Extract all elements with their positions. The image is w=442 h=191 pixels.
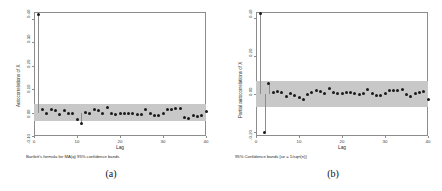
data-point (371, 92, 374, 95)
data-point (306, 93, 309, 96)
x-axis-tick (256, 136, 257, 138)
y-tick-label: 0.20 (248, 48, 253, 57)
data-point (192, 114, 195, 117)
plot-note-a: Bartlett's formula for MA(q) 95% confide… (26, 154, 119, 159)
x-axis-tick (163, 136, 164, 138)
data-point (414, 92, 417, 95)
data-point (205, 110, 208, 113)
y-tick-label: 0.40 (248, 9, 253, 18)
data-point (67, 112, 70, 115)
data-point (259, 12, 262, 15)
subfigure-caption-a: (a) (85, 168, 137, 179)
x-axis-tick (206, 136, 207, 138)
data-point (58, 113, 61, 116)
plot-note-b: 95% Confidence bands [se = 1/sqrt(n)] (235, 154, 307, 159)
x-axis-tick (34, 136, 35, 138)
data-point (106, 106, 109, 109)
plot-area-b (256, 12, 428, 136)
spike-line (265, 94, 266, 132)
x-tick-label: 10 (71, 139, 83, 144)
panel-a: 0.40 0.30 0.20 0.10 0.00 -0.10 Autocorre… (0, 0, 221, 191)
x-axis-tick (120, 136, 121, 138)
spike-line (38, 14, 39, 112)
data-point (119, 112, 122, 115)
data-point (149, 112, 152, 115)
data-point (263, 131, 266, 134)
plot-area-a (34, 12, 206, 136)
y-tick-label: 0.40 (26, 9, 31, 18)
data-point (341, 92, 344, 95)
data-point (110, 112, 113, 115)
y-axis-tick (32, 136, 34, 137)
data-point (84, 111, 87, 114)
spike-line (260, 14, 261, 94)
data-point (427, 98, 430, 101)
x-tick-label: 10 (293, 139, 305, 144)
figure-container: 0.40 0.30 0.20 0.10 0.00 -0.10 Autocorre… (0, 0, 442, 191)
data-point (136, 113, 139, 116)
x-axis-tick (77, 136, 78, 138)
x-tick-label: 30 (157, 139, 169, 144)
x-tick-label: 40 (422, 139, 434, 144)
spike-line (269, 84, 270, 94)
x-tick-label: 40 (200, 139, 212, 144)
x-axis-tick (342, 136, 343, 138)
data-point (80, 122, 83, 125)
y-axis-tick (254, 132, 256, 133)
x-tick-label: 0 (28, 139, 40, 144)
panel-b: 0.40 0.20 0.00 -0.20 Partial autocorrela… (221, 0, 442, 191)
data-point (285, 95, 288, 98)
y-tick-label: 0.00 (248, 87, 253, 96)
y-axis-title-b: Partial autocorrelations of X (238, 62, 243, 118)
data-point (328, 87, 331, 90)
data-point (76, 118, 79, 121)
y-axis-tick (254, 56, 256, 57)
data-point (315, 89, 318, 92)
x-axis-tick (428, 136, 429, 138)
x-tick-label: 20 (336, 139, 348, 144)
data-point (345, 91, 348, 94)
y-tick-label: 0.20 (26, 59, 31, 68)
data-point (41, 108, 44, 111)
data-point (379, 94, 382, 97)
data-point (362, 92, 365, 95)
data-point (170, 108, 173, 111)
data-point (123, 112, 126, 115)
y-axis-tick (254, 18, 256, 19)
subfigure-caption-b: (b) (307, 168, 359, 179)
y-tick-label: 0.30 (26, 34, 31, 43)
x-axis-title-b: Lag (316, 145, 368, 150)
y-axis-title-a: Autocorrelations of X (16, 64, 21, 107)
y-axis-tick (32, 89, 34, 90)
data-point (358, 93, 361, 96)
data-point (140, 113, 143, 116)
data-point (272, 91, 275, 94)
y-axis-tick (32, 42, 34, 43)
data-point (162, 112, 165, 115)
data-point (418, 91, 421, 94)
x-axis-title-a: Lag (94, 145, 146, 150)
data-point (114, 113, 117, 116)
data-point (37, 13, 40, 16)
y-tick-label: 0.00 (26, 109, 31, 118)
data-point (179, 107, 182, 110)
y-axis-tick (32, 66, 34, 67)
y-tick-label: 0.10 (26, 84, 31, 93)
x-tick-label: 30 (379, 139, 391, 144)
y-axis-tick (32, 113, 34, 114)
data-point (384, 92, 387, 95)
data-point (196, 115, 199, 118)
data-point (183, 116, 186, 119)
y-axis-tick (254, 94, 256, 95)
x-tick-label: 20 (114, 139, 126, 144)
x-tick-label: 0 (250, 139, 262, 144)
x-axis-tick (385, 136, 386, 138)
y-axis-tick (32, 19, 34, 20)
x-axis-tick (299, 136, 300, 138)
data-point (54, 109, 57, 112)
